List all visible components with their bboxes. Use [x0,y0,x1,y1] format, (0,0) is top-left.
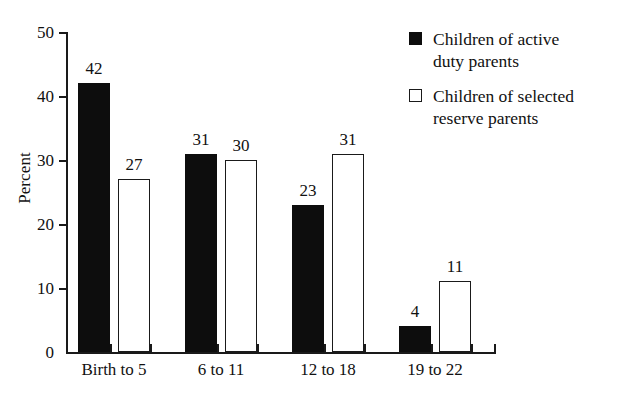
bar-g0-reserve [118,179,150,352]
y-tick-20 [59,224,67,226]
x-tick-end [494,344,496,353]
bar-g1-active [185,154,217,352]
legend-swatch-filled-square-icon [409,32,422,45]
x-axis-label-6-to-11: 6 to 11 [171,360,271,380]
y-tick-label-40: 40 [6,88,54,105]
legend-item-selected-reserve: Children of selected reserve parents [409,85,574,130]
bar-value-g2-active: 23 [292,182,324,199]
y-axis-line [66,32,68,353]
bar-g3-reserve [439,281,471,352]
y-tick-50 [59,32,67,34]
x-axis-label-19-to-22: 19 to 22 [385,360,485,380]
y-tick-label-0: 0 [6,344,54,361]
x-tick-2 [217,344,219,353]
bar-g2-active [292,205,324,352]
bar-value-g1-reserve: 30 [225,137,257,154]
bar-value-g0-active: 42 [78,60,110,77]
bar-value-g2-reserve: 31 [332,131,364,148]
x-tick-4 [324,344,326,353]
y-tick-label-30: 30 [6,152,54,169]
bar-value-g0-reserve: 27 [118,156,150,173]
bar-g0-active [78,83,110,352]
bar-g2-reserve [332,154,364,352]
bar-value-g3-active: 4 [399,303,431,320]
x-tick-3 [257,344,259,353]
x-axis-label-birth-to-5: Birth to 5 [64,360,164,380]
x-tick-1 [150,344,152,353]
x-tick-5 [364,344,366,353]
bar-g3-active [399,326,431,352]
y-tick-40 [59,96,67,98]
bar-value-g1-active: 31 [185,131,217,148]
y-tick-label-20: 20 [6,216,54,233]
legend: Children of active duty parents Children… [409,28,574,142]
bar-value-g3-reserve: 11 [439,258,471,275]
bar-g1-reserve [225,160,257,352]
legend-item-active-duty: Children of active duty parents [409,28,574,73]
y-tick-10 [59,288,67,290]
bar-chart: Percent 50 40 30 20 10 0 42 27 31 30 23 … [0,0,622,402]
x-tick-7 [471,344,473,353]
legend-label-selected-reserve: Children of selected reserve parents [433,85,574,130]
legend-label-active-duty: Children of active duty parents [433,28,574,73]
y-tick-label-10: 10 [6,280,54,297]
y-tick-30 [59,160,67,162]
x-tick-0 [110,344,112,353]
legend-swatch-hollow-square-icon [409,89,422,102]
y-tick-label-50: 50 [6,24,54,41]
x-tick-6 [431,344,433,353]
x-axis-label-12-to-18: 12 to 18 [278,360,378,380]
